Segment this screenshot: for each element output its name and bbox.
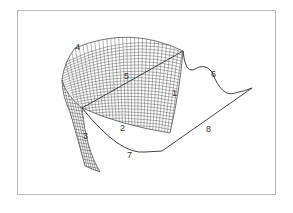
edge-6 xyxy=(183,51,252,94)
band-outline xyxy=(62,80,100,172)
edge-label-5: 5 xyxy=(124,71,129,81)
edge-label-4: 4 xyxy=(75,42,80,52)
diagram-figure: 12345678 xyxy=(0,0,293,213)
edge-labels: 12345678 xyxy=(75,42,216,160)
edge-label-7: 7 xyxy=(127,150,132,160)
edge-label-6: 6 xyxy=(211,69,216,79)
edge-label-8: 8 xyxy=(206,124,211,134)
edge-label-3: 3 xyxy=(83,131,88,141)
surface-diagram: 12345678 xyxy=(0,0,293,213)
edge-label-1: 1 xyxy=(172,88,177,98)
edge-label-2: 2 xyxy=(120,123,125,133)
